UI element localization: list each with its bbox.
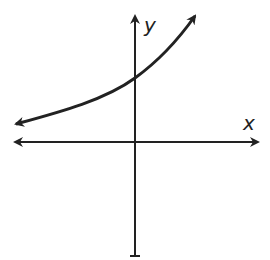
exponential-graph: y x: [0, 0, 270, 260]
x-axis-label: x: [242, 111, 255, 135]
y-axis-label: y: [143, 13, 157, 37]
exponential-curve: [16, 16, 195, 124]
